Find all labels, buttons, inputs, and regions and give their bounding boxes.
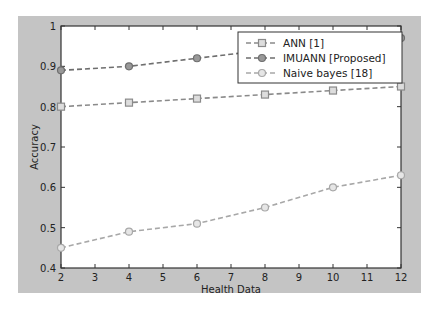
square-marker <box>398 83 405 90</box>
x-tick-label: 3 <box>92 272 98 283</box>
y-tick-label: 0.7 <box>40 142 56 153</box>
line-chart: 234567891011120.40.50.60.70.80.91Health … <box>0 0 437 309</box>
x-tick-label: 10 <box>327 272 340 283</box>
x-tick-label: 12 <box>395 272 408 283</box>
y-tick-label: 1 <box>50 21 56 32</box>
legend-label: ANN [1] <box>283 37 324 49</box>
circle-marker <box>126 228 133 235</box>
square-marker <box>194 95 201 102</box>
x-tick-label: 8 <box>262 272 268 283</box>
circle-marker <box>194 55 201 62</box>
circle-marker <box>194 220 201 227</box>
circle-marker <box>259 55 266 62</box>
y-tick-label: 0.9 <box>40 61 56 72</box>
square-marker <box>126 99 133 106</box>
legend-label: Naive bayes [18] <box>283 67 372 79</box>
square-marker <box>58 103 65 110</box>
circle-marker <box>58 244 65 251</box>
y-tick-label: 0.5 <box>40 223 56 234</box>
x-tick-label: 4 <box>126 272 132 283</box>
y-tick-label: 0.6 <box>40 182 56 193</box>
x-tick-label: 6 <box>194 272 200 283</box>
x-tick-label: 7 <box>228 272 234 283</box>
x-tick-label: 11 <box>361 272 374 283</box>
circle-marker <box>259 70 266 77</box>
square-marker <box>259 40 266 47</box>
legend: ANN [1]IMUANN [Proposed]Naive bayes [18] <box>238 32 402 83</box>
circle-marker <box>330 184 337 191</box>
legend-label: IMUANN [Proposed] <box>283 52 386 64</box>
x-tick-label: 9 <box>296 272 302 283</box>
circle-marker <box>126 63 133 70</box>
y-axis-label: Accuracy <box>29 124 40 170</box>
circle-marker <box>398 172 405 179</box>
square-marker <box>262 91 269 98</box>
x-tick-label: 2 <box>58 272 64 283</box>
square-marker <box>330 87 337 94</box>
y-tick-label: 0.8 <box>40 102 56 113</box>
circle-marker <box>262 204 269 211</box>
circle-marker <box>58 67 65 74</box>
x-axis-label: Health Data <box>201 284 261 295</box>
x-tick-label: 5 <box>160 272 166 283</box>
y-tick-label: 0.4 <box>40 263 56 274</box>
